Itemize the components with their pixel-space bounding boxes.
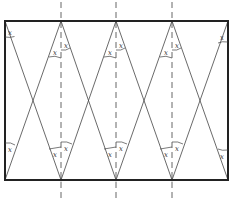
arc-b3-left [160, 147, 172, 149]
arc-br [218, 149, 228, 150]
label-b3-left: x [164, 151, 168, 159]
arc-b3-right [172, 142, 183, 144]
label-t2-left: x [108, 49, 112, 57]
rectangle-frame [5, 21, 228, 180]
angle-arcs [5, 37, 228, 151]
label-b2-right: x [119, 145, 123, 153]
label-t3-right: x [175, 42, 179, 50]
label-b1-left: x [53, 151, 57, 159]
arc-b2-right [116, 142, 127, 144]
label-t3-left: x [164, 49, 168, 57]
label-tr: x [220, 34, 224, 42]
arc-b2-left [104, 147, 116, 149]
label-bl: x [8, 146, 12, 154]
arc-b1-left [49, 147, 61, 149]
label-br: x [220, 153, 224, 161]
label-t1-right: x [64, 42, 68, 50]
dashed-dividers [61, 2, 172, 198]
vertex-dot [60, 179, 63, 182]
label-t2-right: x [119, 42, 123, 50]
label-b1-right: x [64, 145, 68, 153]
label-b3-right: x [175, 145, 179, 153]
label-t1-left: x [53, 49, 57, 57]
diagonals [5, 21, 228, 180]
vertex-dot [115, 179, 118, 182]
label-b2-left: x [108, 151, 112, 159]
vertex-dot [171, 179, 174, 182]
geometry-diagram: x x x x x x x x x x x x x x x x [0, 0, 234, 200]
label-tl: x [8, 29, 12, 37]
arc-bl [5, 143, 15, 145]
arc-b1-right [61, 142, 72, 144]
